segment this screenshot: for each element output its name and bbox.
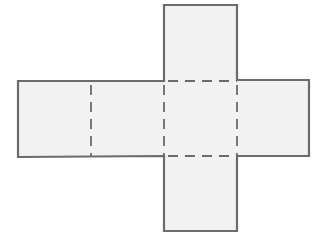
face-top [164,5,237,81]
face-mid-left [91,81,164,156]
face-center [164,81,237,156]
cube-net-diagram [0,0,323,233]
face-bottom [164,156,237,231]
face-right [237,80,309,156]
face-left [18,81,91,156]
